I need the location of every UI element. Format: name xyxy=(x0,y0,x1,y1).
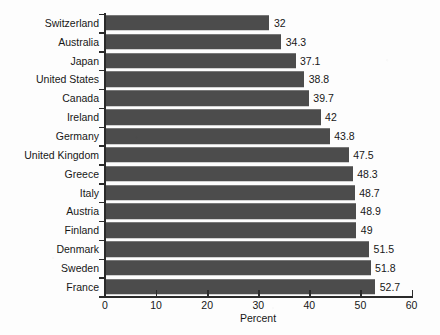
bar-value-label: 34.3 xyxy=(286,37,306,48)
bar xyxy=(106,91,309,107)
x-axis-tick xyxy=(360,290,361,297)
y-axis-tick xyxy=(99,221,105,222)
bar-value-label: 48.9 xyxy=(360,206,380,217)
bar xyxy=(106,279,375,295)
bar xyxy=(106,223,356,239)
y-axis-tick xyxy=(99,277,105,278)
bar xyxy=(106,204,356,220)
x-axis-tick-label: 50 xyxy=(355,300,367,311)
bar-row: Austria48.9 xyxy=(0,202,440,221)
bar-value-label: 48.7 xyxy=(359,187,379,198)
category-label: Ireland xyxy=(67,112,99,123)
bar-value-label: 43.8 xyxy=(334,131,354,142)
y-axis-tick xyxy=(99,259,105,260)
category-label: Denmark xyxy=(56,244,99,255)
bar-row: Germany43.8 xyxy=(0,127,440,146)
category-label: France xyxy=(66,282,99,293)
bar-row: Italy48.7 xyxy=(0,183,440,202)
bar-value-label: 42 xyxy=(325,112,337,123)
category-label: United Kingdom xyxy=(24,150,99,161)
x-axis-tick-label: 10 xyxy=(150,300,162,311)
category-label: Germany xyxy=(56,131,99,142)
y-axis-tick xyxy=(99,51,105,52)
x-axis-tick-label: 30 xyxy=(252,300,264,311)
bar-value-label: 39.7 xyxy=(313,93,333,104)
category-label: Finland xyxy=(65,225,99,236)
plot-area: Switzerland32Australia34.3Japan37.1Unite… xyxy=(0,0,440,335)
category-label: Italy xyxy=(80,187,99,198)
y-axis-tick xyxy=(99,183,105,184)
bar-row: France52.7 xyxy=(0,277,440,296)
bar-value-label: 52.7 xyxy=(380,282,400,293)
bar-row: Japan37.1 xyxy=(0,51,440,70)
bar xyxy=(106,109,321,125)
bar xyxy=(106,147,349,163)
bar xyxy=(106,260,371,276)
bar xyxy=(106,185,355,201)
bar xyxy=(106,53,296,69)
y-axis-tick xyxy=(99,145,105,146)
x-axis-tick-label: 0 xyxy=(102,300,108,311)
x-axis-tick xyxy=(207,290,208,297)
bar-value-label: 51.8 xyxy=(375,263,395,274)
category-label: Japan xyxy=(70,55,99,66)
x-axis-tick xyxy=(105,290,106,297)
y-axis-tick xyxy=(99,164,105,165)
x-axis-tick-label: 40 xyxy=(303,300,315,311)
y-axis-tick xyxy=(99,14,105,15)
bar-value-label: 32 xyxy=(274,18,286,29)
bar-value-label: 49 xyxy=(361,225,373,236)
category-label: United States xyxy=(36,74,99,85)
x-axis-tick-label: 60 xyxy=(406,300,418,311)
bar-row: Canada39.7 xyxy=(0,89,440,108)
bar xyxy=(106,128,330,144)
bar-value-label: 47.5 xyxy=(353,150,373,161)
bar-value-label: 51.5 xyxy=(374,244,394,255)
bar xyxy=(106,241,369,257)
y-axis-tick xyxy=(99,240,105,241)
bar xyxy=(106,15,269,31)
x-axis-tick-label: 20 xyxy=(201,300,213,311)
bar xyxy=(106,72,304,88)
x-axis-title: Percent xyxy=(240,313,276,324)
bar-row: Greece48.3 xyxy=(0,164,440,183)
x-axis-tick xyxy=(309,290,310,297)
category-label: Sweden xyxy=(61,263,99,274)
bar-chart: Switzerland32Australia34.3Japan37.1Unite… xyxy=(0,0,440,335)
bar-value-label: 48.3 xyxy=(357,168,377,179)
bar-row: Sweden51.8 xyxy=(0,259,440,278)
y-axis-tick xyxy=(99,127,105,128)
x-axis-tick xyxy=(412,290,413,297)
y-axis-tick xyxy=(99,70,105,71)
bar-row: Switzerland32 xyxy=(0,14,440,33)
bar-row: Australia34.3 xyxy=(0,32,440,51)
bar-value-label: 37.1 xyxy=(300,55,320,66)
bar xyxy=(106,166,353,182)
x-axis-tick xyxy=(258,290,259,297)
category-label: Canada xyxy=(62,93,99,104)
y-axis-tick xyxy=(99,202,105,203)
category-label: Greece xyxy=(65,168,99,179)
y-axis-tick xyxy=(99,32,105,33)
y-axis-tick xyxy=(99,89,105,90)
bar-row: Finland49 xyxy=(0,221,440,240)
category-label: Australia xyxy=(58,37,99,48)
bar-row: United Kingdom47.5 xyxy=(0,145,440,164)
bar xyxy=(106,34,281,50)
category-label: Switzerland xyxy=(45,18,99,29)
bar-row: United States38.8 xyxy=(0,70,440,89)
bar-row: Denmark51.5 xyxy=(0,240,440,259)
bar-value-label: 38.8 xyxy=(309,74,329,85)
category-label: Austria xyxy=(66,206,99,217)
y-axis-tick xyxy=(99,108,105,109)
bar-row: Ireland42 xyxy=(0,108,440,127)
x-axis-tick xyxy=(156,290,157,297)
